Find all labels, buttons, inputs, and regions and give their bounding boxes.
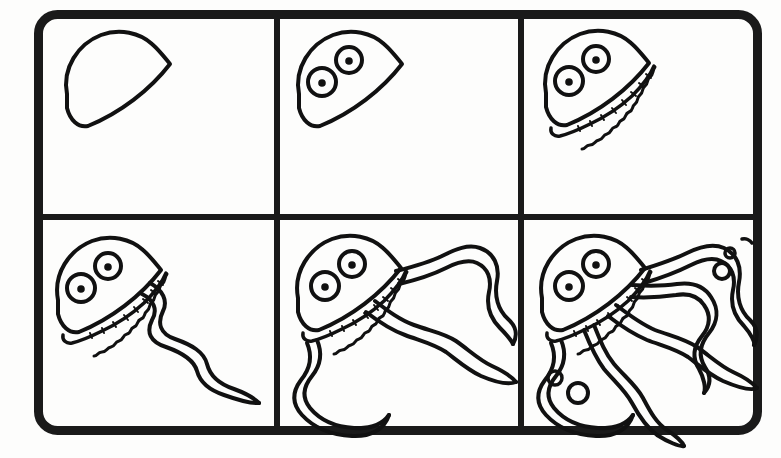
panel-step-2[interactable] [280, 16, 521, 217]
panel-step-4[interactable] [40, 220, 277, 429]
panel-step-1[interactable] [40, 16, 277, 217]
panel-step-6[interactable] [524, 220, 756, 429]
panel-step-3[interactable] [524, 16, 756, 217]
panel-step-5[interactable] [280, 220, 521, 429]
drawing-tutorial-page [0, 0, 781, 458]
